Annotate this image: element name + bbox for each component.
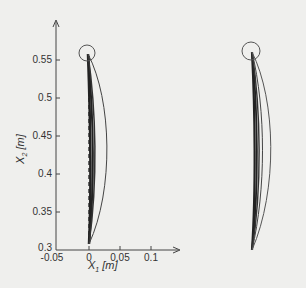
tip-circle-marker-right	[242, 42, 260, 60]
x-axis-label: X1 [m]	[88, 259, 118, 273]
y-axis-label: X2 [m]	[14, 134, 28, 164]
y-tick-label: 0.5	[12, 93, 52, 103]
left-axes	[53, 20, 180, 253]
y-tick-label: 0.4	[12, 169, 52, 179]
y-axis-label-sub: 2	[21, 153, 28, 157]
y-tick-label: 0.55	[12, 55, 52, 65]
x-tick-label: -0.05	[35, 253, 69, 263]
y-axis-label-unit: [m]	[14, 134, 26, 152]
y-tick-label: 0.35	[12, 207, 52, 217]
x-tick-label: 0.1	[134, 253, 168, 263]
right-curves	[242, 42, 271, 250]
y-axis-label-main: X	[14, 157, 26, 164]
left-curves	[79, 45, 107, 244]
x-axis-label-unit: [m]	[99, 259, 117, 271]
